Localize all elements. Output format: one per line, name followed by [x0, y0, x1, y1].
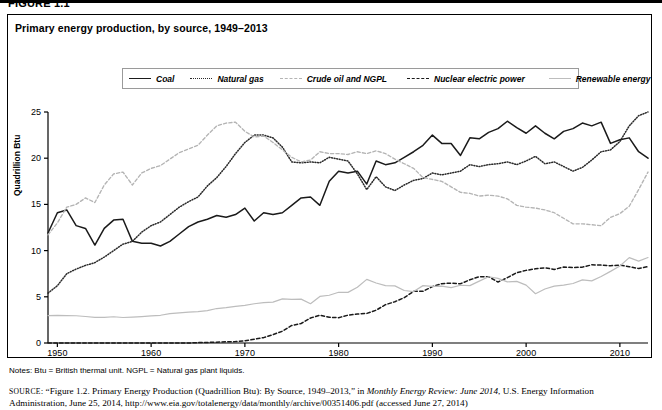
x-tick-label: 2000: [506, 348, 546, 358]
x-tick-label: 1980: [319, 348, 359, 358]
source-prefix: SOURCE: [9, 387, 41, 396]
x-tick-label: 1960: [131, 348, 171, 358]
y-tick-label: 20: [21, 153, 41, 163]
series-line-natural-gas: [48, 112, 648, 293]
plot-area: Quadrillion Btu 0510152025 1950196019701…: [0, 0, 662, 410]
x-tick-label: 1970: [225, 348, 265, 358]
y-tick-label: 5: [21, 292, 41, 302]
y-tick-label: 0: [21, 338, 41, 348]
y-tick-label: 15: [21, 199, 41, 209]
x-tick-label: 1990: [412, 348, 452, 358]
y-tick-label: 10: [21, 246, 41, 256]
chart-source: SOURCE: “Figure 1.2. Primary Energy Prod…: [9, 385, 653, 409]
x-tick-label: 1950: [37, 348, 77, 358]
chart-notes: Notes: Btu = British thermal unit. NGPL …: [9, 366, 244, 375]
series-line-coal: [48, 121, 648, 246]
source-text-1: : “Figure 1.2. Primary Energy Production…: [41, 386, 367, 396]
y-tick-label: 25: [21, 107, 41, 117]
x-tick-label: 2010: [600, 348, 640, 358]
series-line-crude-oil-and-ngpl: [48, 122, 648, 235]
series-line-nuclear-electric-power: [48, 265, 648, 343]
series-line-renewable-energy: [48, 258, 648, 318]
source-italic-1: Monthly Energy Review: June 2014: [367, 386, 498, 396]
